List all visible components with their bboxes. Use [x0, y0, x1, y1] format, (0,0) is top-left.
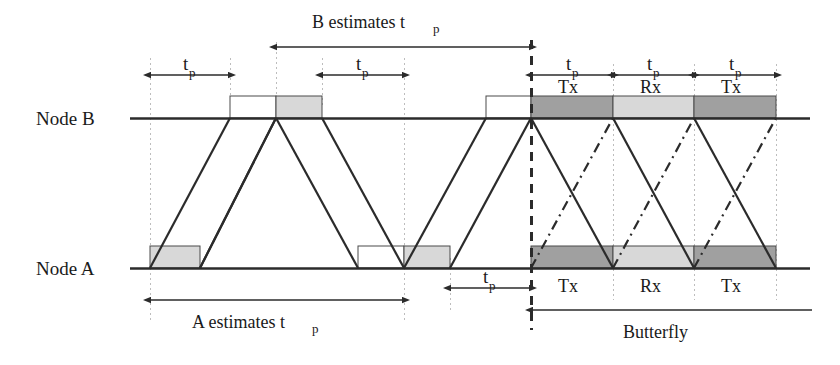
b-estimates-label: B estimates t	[312, 12, 405, 32]
node-a-slot-label-tx-2: Tx	[721, 276, 741, 296]
propagation-lines-left	[150, 118, 531, 268]
node-b-slot-tx-1	[531, 96, 613, 118]
tp-marker-1: t p	[151, 53, 229, 80]
tp-marker-bottom: t p	[451, 266, 530, 293]
node-a-slot-tx-2	[694, 246, 776, 268]
node-b-blocks	[230, 96, 776, 118]
node-a-slot-label-tx-1: Tx	[558, 276, 578, 296]
b-estimates-label-sub: p	[433, 21, 440, 36]
node-b-slot-label-rx-1: Rx	[640, 77, 661, 97]
tp-marker-butterfly-1: t p	[533, 53, 612, 80]
tp-label-sub: p	[189, 65, 196, 80]
tp-label-sub: p	[362, 65, 369, 80]
node-b-label: Node B	[36, 108, 95, 129]
node-a-slot-rx-1	[613, 246, 694, 268]
node-b-slot-labels: Tx Rx Tx	[558, 77, 741, 97]
tp-marker-butterfly-3: t p	[696, 53, 775, 80]
tp-marker-butterfly-2: t p	[615, 53, 693, 80]
node-a-label: Node A	[36, 258, 95, 279]
tp-label-sub: p	[489, 278, 496, 293]
node-b-slot-tx-2	[694, 96, 776, 118]
a-estimates-label: A estimates t	[192, 312, 285, 332]
node-b-block-white-1	[230, 96, 276, 118]
node-b-slot-rx-1	[613, 96, 694, 118]
butterfly-label: Butterfly	[623, 322, 688, 342]
node-a-blocks	[150, 246, 776, 268]
prop-line	[276, 118, 358, 268]
prop-line	[450, 118, 531, 268]
a-estimates-label-sub: p	[312, 321, 319, 336]
node-b-slot-label-tx-2: Tx	[721, 77, 741, 97]
butterfly-annotation: Butterfly	[533, 310, 812, 342]
figure-canvas: Node B Node A B estimates t p A estimate…	[0, 0, 840, 365]
node-a-block-light-1	[150, 246, 200, 268]
node-b-block-white-2	[486, 96, 531, 118]
timing-diagram-svg: Node B Node A B estimates t p A estimate…	[0, 0, 840, 365]
tp-marker-2: t p	[323, 53, 403, 80]
node-a-slot-tx-1	[531, 246, 613, 268]
a-estimates-annotation: A estimates t p	[151, 300, 403, 336]
node-a-slot-labels: Tx Rx Tx	[558, 276, 741, 296]
prop-line	[200, 118, 276, 268]
node-b-slot-label-tx-1: Tx	[558, 77, 578, 97]
node-b-block-light-1	[276, 96, 322, 118]
node-a-slot-label-rx-1: Rx	[640, 276, 661, 296]
b-estimates-annotation: B estimates t p	[277, 12, 530, 47]
